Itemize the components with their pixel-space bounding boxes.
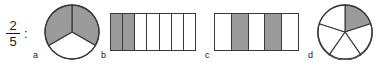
fraction-question-strip: 2 5 : a b — [0, 0, 378, 66]
fraction-denominator: 5 — [6, 34, 19, 48]
option-label-b: b — [101, 51, 106, 60]
option-label-d: d — [308, 51, 313, 60]
bar-figure-c[interactable] — [214, 13, 299, 51]
bar-cell — [232, 14, 249, 50]
bar-cell — [123, 14, 135, 50]
answer-option-a[interactable]: a — [30, 0, 96, 66]
pie-figure-d[interactable] — [317, 4, 373, 60]
bar-cell — [184, 14, 195, 50]
bar-cell — [147, 14, 159, 50]
bar-cell — [172, 14, 184, 50]
answer-option-b[interactable]: b — [96, 0, 200, 66]
bar-cell — [135, 14, 147, 50]
fraction-prompt: 2 5 : — [6, 14, 28, 52]
bar-figure-b[interactable] — [110, 13, 196, 51]
answer-option-d[interactable]: d — [303, 0, 378, 66]
bar-cell — [111, 14, 123, 50]
bar-cell — [265, 14, 282, 50]
option-label-a: a — [33, 51, 38, 60]
target-fraction: 2 5 — [6, 19, 20, 48]
bar-cell — [249, 14, 266, 50]
bar-cell — [215, 14, 232, 50]
bar-cell — [160, 14, 172, 50]
prompt-separator: : — [24, 27, 28, 40]
fraction-numerator: 2 — [6, 19, 19, 33]
option-label-c: c — [205, 51, 210, 60]
bar-cell — [282, 14, 298, 50]
answer-option-c[interactable]: c — [200, 0, 303, 66]
pie-figure-a[interactable] — [44, 4, 100, 60]
